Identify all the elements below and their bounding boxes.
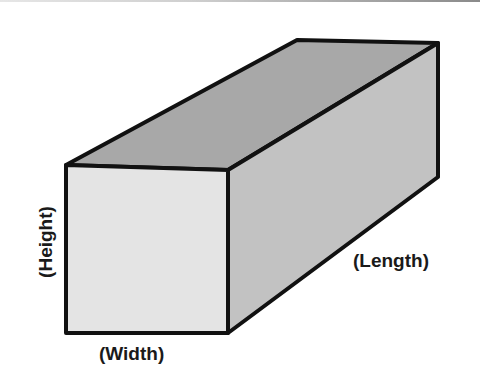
length-label: (Length) (353, 251, 429, 270)
height-label: (Height) (36, 206, 55, 278)
prism-diagram: (Width) (Length) (Height) (0, 0, 480, 391)
front-face (66, 165, 228, 333)
width-label: (Width) (99, 344, 164, 363)
prism-drawing (0, 0, 480, 391)
